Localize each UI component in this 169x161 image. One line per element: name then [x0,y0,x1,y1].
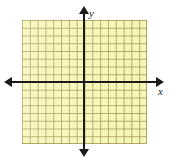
y-axis-label: y [89,8,94,19]
coordinate-plane-figure: y x [0,0,169,161]
arrow-up-icon [79,6,89,14]
x-axis-label: x [158,86,163,97]
arrow-down-icon [79,149,89,157]
x-axis-line [10,81,160,83]
arrow-left-icon [4,77,12,87]
y-axis-line [83,12,85,152]
